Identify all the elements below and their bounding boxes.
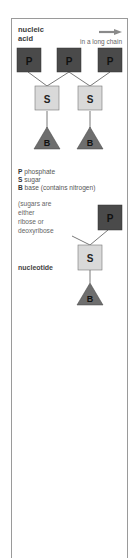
sugar-label: S [87, 94, 94, 105]
note-line: ribose or [18, 217, 78, 226]
phosphate-3: P [98, 48, 122, 72]
phosphate-label: P [66, 56, 73, 67]
legend-key: B [18, 184, 23, 191]
base-1: B [34, 127, 60, 149]
sugar-2: S [78, 86, 102, 110]
legend-item-sugar: S sugar [18, 176, 95, 184]
legend-key: S [18, 176, 22, 183]
note-line: either [18, 208, 78, 217]
nucleotide-base: B [77, 283, 103, 305]
right-arrow-icon [99, 29, 122, 35]
base-2: B [77, 127, 103, 149]
legend-key: P [18, 168, 22, 175]
legend-item-base: B base (contains nitrogen) [18, 184, 95, 192]
phosphate-1: P [17, 48, 41, 72]
legend-text: phosphate [24, 168, 55, 175]
sugar-label: S [87, 253, 94, 264]
phosphate-label: P [26, 56, 33, 67]
phosphate-label: P [107, 56, 114, 67]
nucleotide-phosphate: P [98, 205, 122, 230]
nucleotide-label: nucleotide [18, 264, 53, 271]
nucleotide-sugar: S [78, 245, 102, 270]
sugar-label: S [44, 94, 51, 105]
base-label: B [87, 294, 94, 304]
phosphate-label: P [107, 213, 114, 224]
legend: P phosphate S sugar B base (contains nit… [18, 168, 95, 193]
base-label: B [87, 138, 94, 148]
base-label: B [44, 138, 51, 148]
legend-text: sugar [24, 176, 41, 183]
legend-text: base (contains nitrogen) [25, 184, 96, 191]
note-line: (sugars are [18, 199, 78, 208]
sugar-note: (sugars are either ribose or deoxyribose [18, 199, 78, 235]
legend-item-phosphate: P phosphate [18, 168, 95, 176]
sugar-1: S [35, 86, 59, 110]
phosphate-2: P [57, 48, 81, 72]
note-line: deoxyribose [18, 226, 78, 235]
